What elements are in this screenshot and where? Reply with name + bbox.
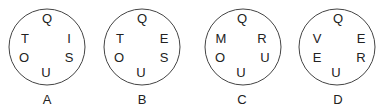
circle-option-a: Q T I O S U A <box>9 9 85 107</box>
option-label: C <box>237 92 246 107</box>
letter-lower-left: O <box>215 50 225 65</box>
letter-bottom: U <box>41 65 50 80</box>
letter-upper-right: E <box>160 31 169 46</box>
letter-lower-left: O <box>114 50 124 65</box>
letter-upper-left: T <box>21 31 29 46</box>
letter-top: Q <box>42 11 52 26</box>
letter-upper-right: I <box>67 31 71 46</box>
circle-option-b: Q T E O S U B <box>104 9 180 107</box>
option-label: A <box>43 92 52 107</box>
letter-lower-right: S <box>160 50 169 65</box>
letter-lower-right: U <box>260 50 269 65</box>
letter-upper-left: M <box>216 31 227 46</box>
letter-lower-right: R <box>356 50 365 65</box>
letter-upper-left: V <box>313 31 322 46</box>
letter-top: Q <box>237 11 247 26</box>
letter-bottom: U <box>236 65 245 80</box>
letter-top: Q <box>137 11 147 26</box>
letter-upper-right: E <box>357 31 366 46</box>
letter-bottom: U <box>136 65 145 80</box>
letter-top: Q <box>333 11 343 26</box>
letter-circles-diagram: Q T I O S U A Q T E O S U B Q M R O U U … <box>0 0 385 110</box>
circle-option-c: Q M R O U U C <box>205 9 281 107</box>
letter-upper-left: T <box>116 31 124 46</box>
option-label: D <box>333 92 342 107</box>
option-label: B <box>138 92 147 107</box>
circle-option-d: Q V E E R U D <box>299 9 375 107</box>
letter-lower-right: S <box>65 50 74 65</box>
letter-lower-left: O <box>19 50 29 65</box>
letter-upper-right: R <box>257 31 266 46</box>
letter-lower-left: E <box>313 50 322 65</box>
letter-bottom: U <box>331 65 340 80</box>
